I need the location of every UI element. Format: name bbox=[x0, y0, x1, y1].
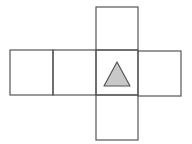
cube-face-face-1 bbox=[10, 50, 53, 95]
cube-face-face-4 bbox=[138, 51, 181, 96]
triangle-icon bbox=[104, 62, 130, 86]
cube-face-face-bottom bbox=[96, 95, 138, 140]
cube-net-svg bbox=[0, 0, 192, 144]
cube-net-diagram bbox=[0, 0, 192, 144]
cube-face-face-top bbox=[96, 7, 138, 50]
cube-face-face-2 bbox=[53, 50, 96, 95]
